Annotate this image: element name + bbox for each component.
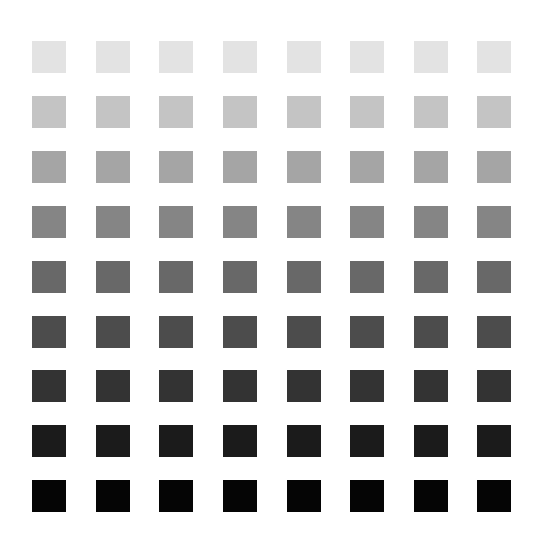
- gray-swatch: [287, 316, 321, 348]
- gray-swatch: [159, 425, 193, 457]
- gray-swatch: [159, 370, 193, 402]
- gray-swatch: [350, 151, 384, 183]
- gray-swatch: [32, 316, 66, 348]
- gray-swatch: [477, 480, 511, 512]
- gray-swatch: [223, 480, 257, 512]
- gray-swatch: [32, 370, 66, 402]
- gray-swatch: [477, 206, 511, 238]
- gray-swatch: [96, 206, 130, 238]
- gray-swatch: [350, 206, 384, 238]
- gray-swatch: [414, 151, 448, 183]
- gray-swatch: [96, 480, 130, 512]
- gray-swatch: [159, 480, 193, 512]
- gray-swatch: [350, 480, 384, 512]
- gray-swatch: [32, 206, 66, 238]
- gray-swatch: [159, 261, 193, 293]
- gray-swatch: [287, 261, 321, 293]
- gray-swatch: [350, 261, 384, 293]
- gray-swatch: [287, 41, 321, 73]
- gray-swatch: [414, 480, 448, 512]
- gray-swatch: [223, 96, 257, 128]
- gray-swatch: [223, 41, 257, 73]
- gray-swatch: [477, 96, 511, 128]
- gray-swatch: [96, 261, 130, 293]
- gray-swatch: [223, 425, 257, 457]
- gray-swatch: [96, 151, 130, 183]
- gray-swatch: [414, 425, 448, 457]
- gray-swatch: [223, 151, 257, 183]
- gray-swatch: [223, 261, 257, 293]
- gray-swatch: [32, 151, 66, 183]
- gray-swatch: [350, 41, 384, 73]
- gray-swatch: [96, 96, 130, 128]
- gray-swatch: [159, 96, 193, 128]
- gray-swatch: [96, 316, 130, 348]
- gray-swatch: [32, 41, 66, 73]
- gray-swatch: [477, 425, 511, 457]
- gray-swatch: [350, 96, 384, 128]
- gray-swatch: [96, 425, 130, 457]
- gray-swatch: [159, 316, 193, 348]
- gray-swatch: [350, 370, 384, 402]
- gray-swatch: [32, 96, 66, 128]
- gray-swatch: [477, 261, 511, 293]
- gray-swatch: [159, 206, 193, 238]
- gray-swatch: [287, 151, 321, 183]
- gray-swatch: [414, 206, 448, 238]
- gray-swatch: [287, 206, 321, 238]
- gray-swatch: [287, 370, 321, 402]
- gray-swatch: [414, 96, 448, 128]
- gray-swatch: [477, 316, 511, 348]
- gray-swatch: [477, 41, 511, 73]
- gray-swatch: [223, 316, 257, 348]
- gray-swatch: [350, 316, 384, 348]
- gray-swatch: [287, 480, 321, 512]
- gray-swatch: [96, 370, 130, 402]
- gray-swatch: [477, 370, 511, 402]
- gray-swatch: [414, 370, 448, 402]
- gray-swatch: [32, 480, 66, 512]
- gray-swatch: [477, 151, 511, 183]
- gray-swatch: [159, 151, 193, 183]
- gray-swatch: [414, 261, 448, 293]
- gray-swatch: [350, 425, 384, 457]
- gray-swatch: [223, 370, 257, 402]
- gray-swatch: [287, 96, 321, 128]
- gray-swatch: [414, 316, 448, 348]
- gray-swatch: [414, 41, 448, 73]
- gray-swatch: [96, 41, 130, 73]
- gray-swatch: [223, 206, 257, 238]
- gray-swatch: [159, 41, 193, 73]
- gray-swatch: [32, 425, 66, 457]
- gray-swatch: [32, 261, 66, 293]
- gray-swatch: [287, 425, 321, 457]
